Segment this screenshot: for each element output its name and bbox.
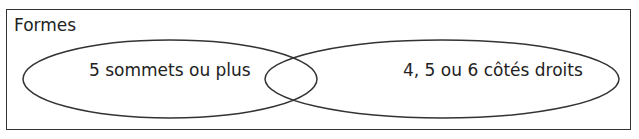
- set-a-label: 5 sommets ou plus: [89, 60, 251, 80]
- set-b-label: 4, 5 ou 6 côtés droits: [403, 60, 583, 80]
